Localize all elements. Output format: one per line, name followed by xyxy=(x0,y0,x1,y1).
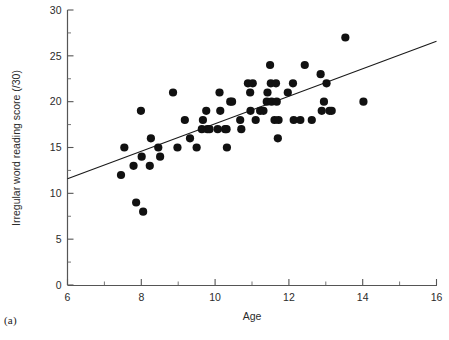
y-tick-label-30: 30 xyxy=(50,4,62,16)
data-points xyxy=(117,33,368,215)
y-tick-label-15: 15 xyxy=(50,141,62,153)
data-point xyxy=(139,208,147,216)
data-point xyxy=(274,134,282,142)
data-point xyxy=(228,98,236,106)
y-tick-label-5: 5 xyxy=(56,233,62,245)
data-point xyxy=(193,143,201,151)
data-point xyxy=(169,88,177,96)
data-point xyxy=(263,88,271,96)
data-point xyxy=(202,107,210,115)
data-point xyxy=(359,98,367,106)
data-point xyxy=(249,79,257,87)
y-axis-tick-labels: 051015202530 xyxy=(50,4,62,291)
data-point xyxy=(266,61,274,69)
data-point xyxy=(223,143,231,151)
x-axis-ticks xyxy=(68,279,437,285)
data-point xyxy=(147,134,155,142)
figure-panel: 051015202530 6810121416 Age Irregular wo… xyxy=(0,0,449,340)
data-point xyxy=(120,143,128,151)
data-point xyxy=(308,116,316,124)
data-point xyxy=(259,107,267,115)
y-tick-label-20: 20 xyxy=(50,95,62,107)
data-point xyxy=(154,143,162,151)
y-tick-label-25: 25 xyxy=(50,50,62,62)
data-point xyxy=(138,153,146,161)
x-axis-title: Age xyxy=(243,310,262,322)
data-point xyxy=(272,79,280,87)
data-point xyxy=(317,70,325,78)
data-point xyxy=(284,88,292,96)
y-axis-title: Irregular word reading score (/30) xyxy=(10,70,22,226)
data-point xyxy=(322,79,330,87)
data-point xyxy=(320,98,328,106)
data-point xyxy=(289,79,297,87)
data-point xyxy=(186,134,194,142)
data-point xyxy=(222,125,230,133)
data-point xyxy=(214,125,222,133)
data-point xyxy=(199,116,207,124)
y-tick-label-0: 0 xyxy=(56,279,62,291)
x-tick-label-6: 6 xyxy=(65,291,71,303)
data-point xyxy=(146,162,154,170)
data-point xyxy=(137,107,145,115)
data-point xyxy=(274,116,282,124)
data-point xyxy=(215,88,223,96)
data-point xyxy=(328,107,336,115)
x-tick-label-12: 12 xyxy=(283,291,295,303)
data-point xyxy=(236,116,244,124)
data-point xyxy=(252,116,260,124)
x-axis-tick-labels: 6810121416 xyxy=(65,291,443,303)
data-point xyxy=(273,98,281,106)
x-tick-label-14: 14 xyxy=(357,291,369,303)
x-tick-label-16: 16 xyxy=(431,291,443,303)
data-point xyxy=(173,143,181,151)
data-point xyxy=(301,61,309,69)
data-point xyxy=(156,153,164,161)
panel-label: (a) xyxy=(4,314,17,326)
data-point xyxy=(318,107,326,115)
y-tick-label-10: 10 xyxy=(50,187,62,199)
data-point xyxy=(132,198,140,206)
x-tick-label-8: 8 xyxy=(138,291,144,303)
data-point xyxy=(341,33,349,41)
data-point xyxy=(246,107,254,115)
data-point xyxy=(216,107,224,115)
data-point xyxy=(129,162,137,170)
data-point xyxy=(237,125,245,133)
y-axis-ticks xyxy=(68,10,74,285)
data-point xyxy=(246,88,254,96)
scatter-plot: 051015202530 6810121416 Age Irregular wo… xyxy=(0,0,449,340)
data-point xyxy=(296,116,304,124)
data-point xyxy=(205,125,213,133)
data-point xyxy=(117,171,125,179)
x-tick-label-10: 10 xyxy=(209,291,221,303)
data-point xyxy=(181,116,189,124)
